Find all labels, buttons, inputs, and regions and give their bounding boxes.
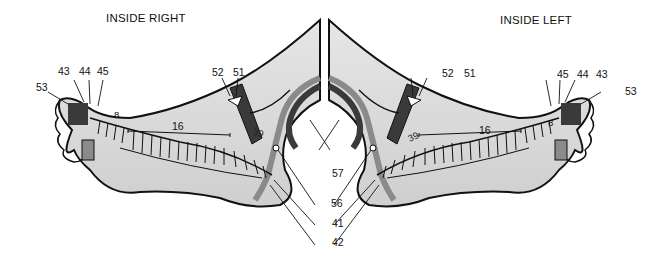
- right-label-8: 8: [114, 110, 119, 120]
- title-inside-right: INSIDE RIGHT: [106, 12, 186, 24]
- right-label-44: 44: [79, 66, 91, 77]
- right-side-block: [82, 140, 94, 160]
- left-toe-block: [561, 103, 581, 125]
- feet-illustration: [0, 0, 649, 263]
- right-toe-block: [68, 103, 88, 125]
- left-label-16: 16: [479, 125, 491, 136]
- left-label-8: 8: [548, 118, 553, 128]
- center-label-41: 41: [332, 218, 344, 229]
- right-label-45: 45: [97, 66, 109, 77]
- right-label-43: 43: [58, 66, 70, 77]
- right-foot-outline: [59, 16, 320, 206]
- right-label-53: 53: [36, 82, 48, 93]
- center-label-57: 57: [332, 168, 344, 179]
- left-label-52: 52: [442, 68, 454, 79]
- right-label-52: 52: [212, 67, 224, 78]
- left-label-51: 51: [464, 68, 476, 79]
- left-label-44: 44: [577, 69, 589, 80]
- right-foot: [48, 16, 330, 245]
- left-side-block: [555, 140, 567, 160]
- center-label-42: 42: [332, 237, 344, 248]
- reflexology-diagram: INSIDE RIGHT INSIDE LEFT 53 43 44 45 8 1…: [0, 0, 649, 263]
- title-inside-left: INSIDE LEFT: [500, 14, 572, 26]
- right-label-51: 51: [233, 67, 245, 78]
- left-label-43: 43: [596, 69, 608, 80]
- left-foot: [319, 20, 601, 245]
- left-label-53: 53: [625, 86, 637, 97]
- right-label-16: 16: [172, 121, 184, 132]
- center-label-56: 56: [331, 198, 343, 209]
- left-label-45: 45: [557, 69, 569, 80]
